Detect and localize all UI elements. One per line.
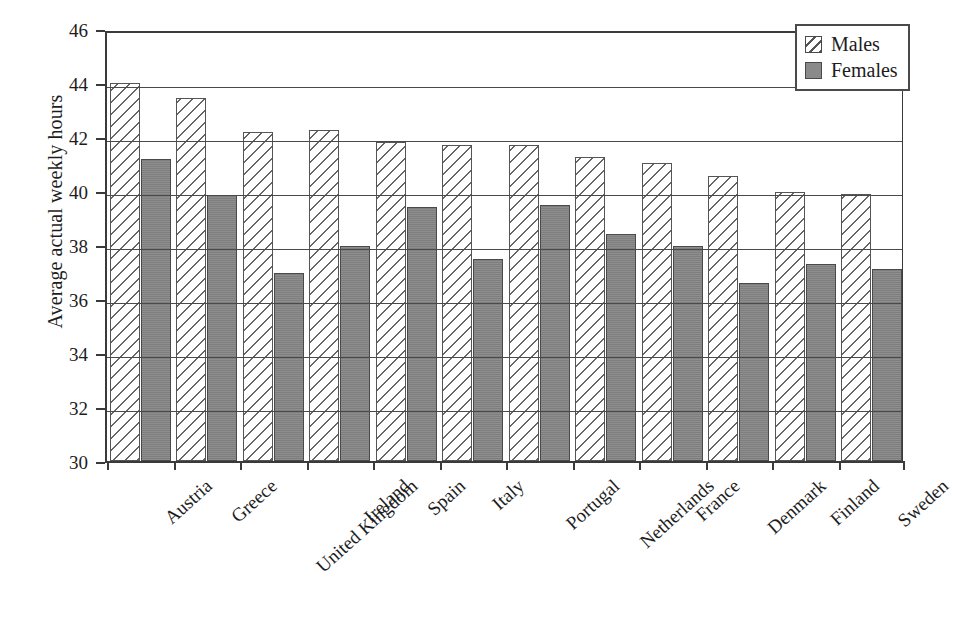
bar-spain-females [407,207,437,461]
legend-item-females: Females [805,57,898,83]
x-axis-label-sweden: Sweden [893,475,952,532]
legend-swatch-females-icon [805,62,822,79]
bar-greece-females [207,195,237,461]
bar-sweden-females [872,269,902,461]
x-axis-label-ireland: Ireland [360,475,415,527]
y-axis-title: Average actual weekly hours [44,2,67,422]
bar-united-kingdom-females [274,273,304,461]
bar-austria-females [141,159,171,461]
bar-finland-females [806,264,836,461]
gridline [107,411,902,412]
y-tick-mark [96,138,105,140]
y-tick-mark [96,408,105,410]
y-tick-mark [96,30,105,32]
x-tick-mark [639,461,641,470]
bar-greece-males [176,98,206,461]
bar-austria-males [110,83,140,461]
bar-portugal-females [540,205,570,462]
x-tick-mark [903,461,905,470]
x-tick-mark [373,461,375,470]
x-axis-label-denmark: Denmark [763,475,830,539]
x-tick-mark [307,461,309,470]
x-tick-mark [107,461,109,470]
x-axis-label-greece: Greece [227,475,282,527]
gridline [107,195,902,196]
x-axis-label-spain: Spain [423,475,470,520]
x-axis-label-finland: Finland [826,475,884,530]
bar-denmark-females [739,283,769,461]
gridline [107,87,902,88]
x-axis-label-united-kingdom: United Kingdom [312,475,422,577]
x-axis-label-portugal: Portugal [562,475,625,534]
x-tick-mark [772,461,774,470]
y-tick-mark [96,84,105,86]
bar-france-males [642,163,672,461]
x-tick-mark [174,461,176,470]
bar-italy-females [473,259,503,462]
legend-label-males: Males [831,34,880,54]
bar-netherlands-males [575,157,605,461]
x-axis-label-netherlands: Netherlands [635,475,718,553]
bars-layer [107,33,902,461]
y-tick-mark [96,246,105,248]
chart-legend: Males Females [795,24,910,91]
gridline [107,141,902,142]
bar-finland-males [775,192,805,461]
bar-ireland-females [340,246,370,461]
bar-sweden-males [841,194,871,461]
y-tick-label: 30 [42,453,88,472]
x-tick-mark [839,461,841,470]
y-tick-mark [96,300,105,302]
gridline [107,357,902,358]
gridline [107,249,902,250]
legend-swatch-males-icon [805,36,822,53]
y-tick-mark [96,462,105,464]
bar-france-females [673,246,703,461]
x-tick-mark [440,461,442,470]
plot-area [105,31,903,463]
y-tick-mark [96,192,105,194]
legend-label-females: Females [831,60,898,80]
legend-item-males: Males [805,31,898,57]
x-axis-label-france: France [691,475,744,526]
bar-denmark-males [708,176,738,461]
x-tick-mark [506,461,508,470]
bar-spain-males [376,142,406,461]
x-tick-mark [573,461,575,470]
gridline [107,303,902,304]
bar-netherlands-females [606,234,636,461]
x-tick-mark [240,461,242,470]
x-axis-label-italy: Italy [488,475,529,515]
y-tick-mark [96,354,105,356]
x-tick-mark [706,461,708,470]
x-axis-label-austria: Austria [161,475,217,529]
